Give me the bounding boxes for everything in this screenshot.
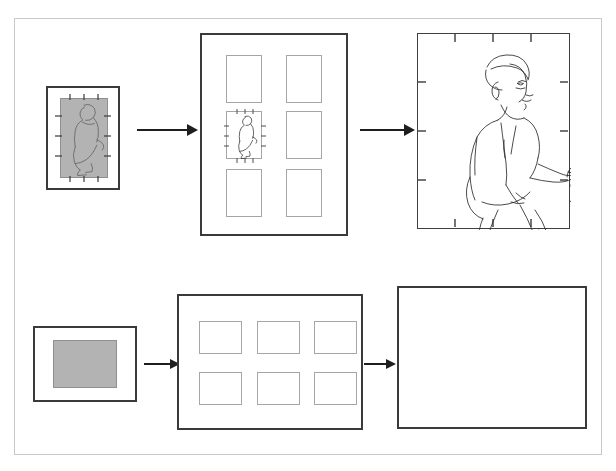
bottom-tile-cell bbox=[257, 321, 300, 354]
bottom-arrow-2 bbox=[363, 355, 397, 373]
top-output-figure-lineart bbox=[418, 34, 571, 230]
bottom-input-gray-image bbox=[53, 340, 117, 388]
bottom-tile-cell bbox=[314, 372, 357, 405]
top-arrow-1 bbox=[135, 120, 199, 140]
top-tile-cell bbox=[286, 111, 322, 159]
bottom-tile-cell bbox=[199, 321, 242, 354]
bottom-tile-sheet bbox=[177, 294, 363, 430]
top-output-frame bbox=[417, 33, 570, 229]
top-arrow-2 bbox=[358, 120, 416, 140]
top-input-frame bbox=[46, 86, 120, 190]
bottom-tile-cell bbox=[199, 372, 242, 405]
top-tile-cell bbox=[286, 55, 322, 103]
top-input-figure-lineart bbox=[60, 98, 108, 178]
bottom-tile-cell bbox=[314, 321, 357, 354]
bottom-input-frame bbox=[33, 326, 137, 402]
diagram-canvas bbox=[0, 0, 616, 471]
bottom-tile-cell bbox=[257, 372, 300, 405]
top-tile-cell-filled bbox=[226, 111, 262, 159]
bottom-arrow-1 bbox=[143, 355, 181, 373]
top-tile-sheet bbox=[200, 33, 348, 236]
top-tile-cell bbox=[226, 55, 262, 103]
bottom-output-frame bbox=[397, 286, 587, 429]
top-tile-cell bbox=[286, 169, 322, 217]
top-tile-figure-lineart bbox=[227, 112, 263, 160]
top-tile-cell bbox=[226, 169, 262, 217]
